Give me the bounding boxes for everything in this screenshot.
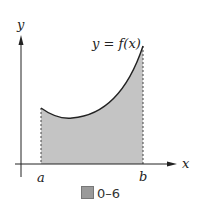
y-axis-label: y <box>16 17 25 32</box>
bound-a-label: a <box>37 170 45 185</box>
x-axis-label: x <box>182 156 190 171</box>
bound-b-label: b <box>139 169 147 184</box>
figure-caption: 0–6 <box>0 186 201 201</box>
figure-glyph-icon <box>81 186 94 199</box>
shaded-area <box>41 46 143 164</box>
y-axis-arrow-icon <box>19 35 24 45</box>
area-under-curve-diagram: y x a b y = f(x) <box>0 0 201 209</box>
curve-label: y = f(x) <box>91 36 141 51</box>
figure-caption-label: 0–6 <box>97 186 120 201</box>
x-axis-arrow-icon <box>167 162 177 167</box>
